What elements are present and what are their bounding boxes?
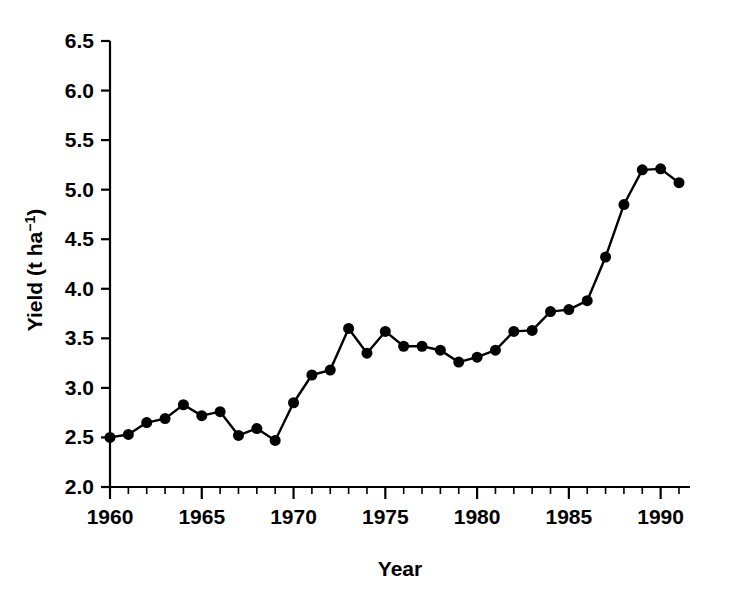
data-point [453,357,464,368]
data-point [618,199,629,210]
data-point [123,429,134,440]
y-tick-label: 4.5 [65,227,95,250]
data-point [288,397,299,408]
x-tick-label: 1970 [270,505,317,528]
data-point [178,399,189,410]
data-point [343,323,354,334]
y-tick-label: 4.0 [65,277,94,300]
data-point [306,370,317,381]
y-tick-label: 3.0 [65,376,94,399]
y-axis-title-tail: ) [23,209,46,216]
data-point [215,406,226,417]
data-point [380,326,391,337]
data-point [490,345,501,356]
x-tick-label: 1975 [362,505,409,528]
data-point [325,365,336,376]
x-tick-label: 1980 [454,505,501,528]
x-tick-label: 1960 [87,505,134,528]
data-point [141,417,152,428]
data-point [563,304,574,315]
data-point [582,295,593,306]
y-tick-label: 2.0 [65,475,94,498]
data-point [251,423,262,434]
x-tick-label: 1990 [637,505,684,528]
y-tick-label: 6.5 [65,29,95,52]
data-point [196,410,207,421]
line-chart: 2.02.53.03.54.04.55.05.56.06.5 196019651… [0,0,732,605]
data-point [270,435,281,446]
y-axis-title-base: Yield (t ha [23,231,46,331]
data-point [508,326,519,337]
x-tick-label: 1965 [178,505,225,528]
data-point [361,348,372,359]
data-point [160,413,171,424]
data-point [673,177,684,188]
data-point [637,164,648,175]
data-point [545,306,556,317]
data-point [472,352,483,363]
y-tick-label: 3.5 [65,326,95,349]
data-point [527,325,538,336]
x-axis-title: Year [378,557,422,580]
y-tick-label: 5.5 [65,128,95,151]
data-point [600,252,611,263]
data-point [417,341,428,352]
chart-figure: 2.02.53.03.54.04.55.05.56.06.5 196019651… [0,0,732,605]
data-point [655,163,666,174]
y-tick-label: 2.5 [65,425,95,448]
y-axis-title-superscript: −1 [22,216,38,232]
y-tick-label: 5.0 [65,178,94,201]
data-point [398,341,409,352]
data-point [435,345,446,356]
x-tick-label: 1985 [546,505,593,528]
data-point [233,430,244,441]
y-tick-label: 6.0 [65,79,94,102]
data-point [105,432,116,443]
